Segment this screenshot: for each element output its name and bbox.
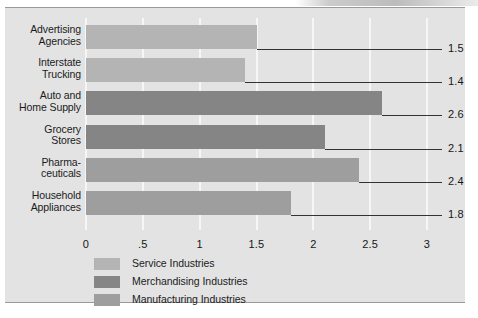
category-label-line1: Advertising	[5, 24, 81, 36]
legend-label: Service Industries	[132, 257, 215, 269]
category-label: InterstateTrucking	[5, 57, 81, 80]
category-label-line2: Agencies	[5, 36, 81, 48]
value-label: 1.4	[448, 75, 464, 87]
bar[interactable]	[86, 158, 359, 182]
x-tick-label: 1.5	[244, 238, 270, 250]
category-label-line1: Interstate	[5, 57, 81, 69]
leader-line	[257, 49, 443, 50]
leader-line	[325, 149, 442, 150]
leader-line	[359, 182, 442, 183]
category-label: GroceryStores	[5, 124, 81, 147]
bar[interactable]	[86, 125, 325, 149]
value-label: 1.5	[448, 42, 464, 54]
category-label-line2: ceuticals	[5, 168, 81, 180]
value-label: 1.8	[448, 208, 464, 220]
value-label: 2.1	[448, 142, 464, 154]
x-tick-label: 1	[187, 238, 213, 250]
x-tick-label: 3	[414, 238, 440, 250]
category-label: AdvertisingAgencies	[5, 24, 81, 47]
category-label: HouseholdAppliances	[5, 190, 81, 213]
category-label-line2: Stores	[5, 135, 81, 147]
legend-swatch	[94, 258, 120, 270]
category-label-line1: Household	[5, 190, 81, 202]
category-label: Pharma-ceuticals	[5, 157, 81, 180]
category-label-line2: Appliances	[5, 202, 81, 214]
chart-figure: AdvertisingAgenciesInterstateTruckingAut…	[0, 0, 478, 318]
category-label-line2: Home Supply	[5, 102, 81, 114]
bar[interactable]	[86, 25, 257, 49]
legend-swatch	[94, 294, 120, 306]
x-tick-label: 2	[300, 238, 326, 250]
x-tick-label: 0	[73, 238, 99, 250]
value-label: 2.4	[448, 175, 464, 187]
x-tick-label: 2.5	[357, 238, 383, 250]
bar[interactable]	[86, 58, 245, 82]
leader-line	[291, 215, 442, 216]
x-tick-label: .5	[130, 238, 156, 250]
leader-line	[382, 115, 442, 116]
bar[interactable]	[86, 91, 382, 115]
category-label-line2: Trucking	[5, 69, 81, 81]
value-label: 2.6	[448, 108, 464, 120]
legend-swatch	[94, 276, 120, 288]
bar[interactable]	[86, 191, 291, 215]
legend-label: Manufacturing Industries	[132, 293, 246, 305]
leader-line	[245, 82, 442, 83]
legend-label: Merchandising Industries	[132, 275, 248, 287]
scan-artifact	[296, 0, 478, 6]
chart-panel: AdvertisingAgenciesInterstateTruckingAut…	[5, 7, 465, 303]
category-label: Auto andHome Supply	[5, 90, 81, 113]
